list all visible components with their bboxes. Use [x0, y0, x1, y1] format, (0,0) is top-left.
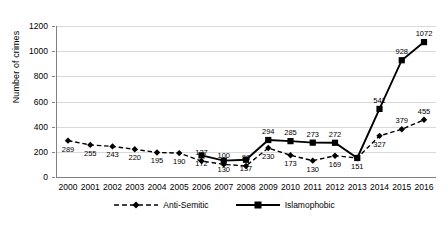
data-label: 541	[365, 96, 395, 105]
chart-legend: Anti-Semitic Islamophobic	[0, 200, 448, 210]
data-point-marker	[399, 57, 405, 63]
data-point-marker	[265, 137, 271, 143]
legend-item-anti-semitic: Anti-Semitic	[113, 200, 208, 210]
series-layer	[0, 0, 448, 231]
data-point-marker	[332, 140, 338, 146]
legend-symbol-solid-square	[235, 200, 281, 210]
data-point-marker	[176, 150, 182, 156]
data-point-marker	[287, 152, 293, 158]
data-point-marker	[310, 157, 316, 163]
data-point-marker	[154, 149, 160, 155]
data-label: 455	[409, 107, 439, 116]
data-point-marker	[87, 142, 93, 148]
data-label: 379	[387, 116, 417, 125]
line-chart: Number of crimes 020040060080010001200 2…	[0, 0, 448, 231]
legend-item-islamophobic: Islamophobic	[235, 200, 335, 210]
data-point-marker	[421, 117, 427, 123]
data-point-marker	[376, 106, 382, 112]
data-label: 137	[231, 164, 261, 173]
data-point-marker	[65, 137, 71, 143]
data-label: 327	[365, 140, 395, 149]
data-label: 151	[342, 162, 372, 171]
data-point-marker	[421, 39, 427, 45]
data-label: 272	[320, 130, 350, 139]
data-point-marker	[354, 155, 360, 161]
data-label: 928	[387, 47, 417, 56]
data-point-marker	[132, 146, 138, 152]
data-label: 1072	[409, 29, 439, 38]
legend-symbol-dashed-diamond	[113, 200, 159, 210]
data-point-marker	[310, 140, 316, 146]
data-point-marker	[332, 153, 338, 159]
data-point-marker	[287, 138, 293, 144]
data-point-marker	[109, 143, 115, 149]
data-point-marker	[399, 126, 405, 132]
